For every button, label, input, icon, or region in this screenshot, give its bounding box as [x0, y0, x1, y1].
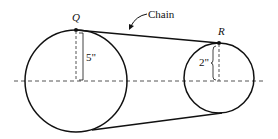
chain-top-segment	[76, 30, 219, 43]
small-radius-label: 2"	[199, 57, 209, 68]
diagram-canvas	[0, 0, 278, 139]
small-radius-brace	[211, 46, 216, 80]
point-q-label: Q	[72, 12, 80, 23]
small-sprocket-circle	[184, 43, 254, 113]
chain-pointer-arrow	[131, 14, 147, 26]
large-radius-label: 5"	[86, 52, 96, 63]
large-radius-bracket	[79, 33, 83, 80]
chain-diagram: Q R Chain 5" 2"	[0, 0, 278, 139]
point-r-label: R	[218, 26, 225, 37]
chain-bottom-segment	[92, 113, 222, 130]
chain-label: Chain	[148, 9, 174, 20]
